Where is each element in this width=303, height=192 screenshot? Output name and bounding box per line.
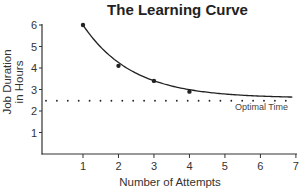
y-tick-label: 3 xyxy=(31,84,37,96)
y-axis-title-line2: in Hours xyxy=(13,60,25,103)
optimal-time-dot xyxy=(230,100,232,102)
data-point-marker xyxy=(116,64,120,68)
optimal-time-dot xyxy=(121,100,123,102)
chart-container: The Learning Curve 1234561234567Number o… xyxy=(0,0,303,192)
optimal-time-dot xyxy=(100,100,102,102)
y-tick-label: 5 xyxy=(31,41,37,53)
y-tick-label: 4 xyxy=(31,62,37,74)
optimal-time-dot xyxy=(56,100,58,102)
x-tick-label: 3 xyxy=(151,160,157,172)
optimal-time-dot xyxy=(198,100,200,102)
optimal-time-dot xyxy=(143,100,145,102)
optimal-time-dot xyxy=(220,100,222,102)
x-tick-label: 5 xyxy=(222,160,228,172)
optimal-time-dot xyxy=(78,100,80,102)
optimal-time-dot xyxy=(89,100,91,102)
y-tick-label: 6 xyxy=(31,19,37,31)
data-point-marker xyxy=(152,79,156,83)
optimal-time-dot xyxy=(111,100,113,102)
learning-curve-line xyxy=(83,25,292,97)
optimal-time-dot xyxy=(67,100,69,102)
optimal-time-dot xyxy=(176,100,178,102)
optimal-time-dot xyxy=(132,100,134,102)
optimal-time-dot xyxy=(45,100,47,102)
data-point-marker xyxy=(81,23,85,27)
optimal-time-dot xyxy=(165,100,167,102)
optimal-time-dot xyxy=(154,100,156,102)
chart-plot: 1234561234567Number of AttemptsJob Durat… xyxy=(0,0,303,192)
x-axis-title: Number of Attempts xyxy=(119,176,221,188)
optimal-time-label: Optimal Time xyxy=(235,102,288,112)
optimal-time-dot xyxy=(209,100,211,102)
data-point-marker xyxy=(187,89,191,93)
x-tick-label: 6 xyxy=(257,160,263,172)
y-tick-label: 1 xyxy=(31,127,37,139)
optimal-time-dot xyxy=(187,100,189,102)
x-tick-label: 4 xyxy=(186,160,192,172)
x-tick-label: 2 xyxy=(115,160,121,172)
y-axis-title-line1: Job Duration xyxy=(1,49,13,114)
x-tick-label: 1 xyxy=(80,160,86,172)
x-tick-label: 7 xyxy=(293,160,299,172)
y-tick-label: 2 xyxy=(31,105,37,117)
